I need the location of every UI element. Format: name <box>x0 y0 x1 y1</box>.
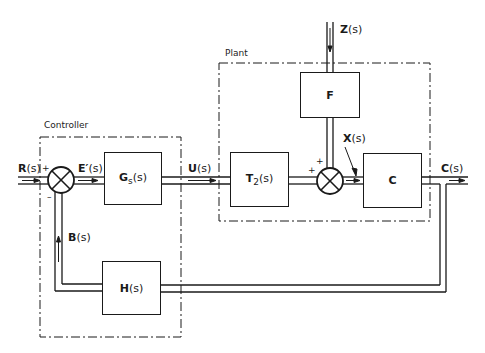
sum1-minus-sign: – <box>47 193 52 202</box>
signal-z-label: Z(s) <box>340 24 362 35</box>
block-h[interactable]: H(s) <box>102 261 161 315</box>
sum1-plus-sign: + <box>42 164 50 173</box>
signal-e-label: E′(s) <box>78 163 103 174</box>
block-c-name: C <box>388 174 396 187</box>
block-f[interactable]: F <box>300 72 360 118</box>
signal-u-label: U(s) <box>188 163 211 174</box>
block-t2-arg: (s) <box>259 172 273 185</box>
sum2-plus-top-sign: + <box>316 157 324 166</box>
sum2-plus-left-sign: + <box>308 166 316 175</box>
block-g-arg: (s) <box>133 171 147 184</box>
signal-x-label: X(s) <box>343 133 366 144</box>
block-h-arg: (s) <box>129 282 143 295</box>
controller-label: Controller <box>44 120 88 130</box>
signal-b-label: B(s) <box>68 232 91 243</box>
block-g-name: G <box>119 171 128 184</box>
block-h-name: H <box>120 282 129 295</box>
block-g[interactable]: Gs(s) <box>104 152 162 205</box>
block-t2[interactable]: T2(s) <box>230 152 289 207</box>
block-c[interactable]: C <box>363 153 422 208</box>
plant-label: Plant <box>225 48 248 58</box>
block-f-name: F <box>326 89 334 102</box>
signal-c-label: C(s) <box>441 163 463 174</box>
signal-r-label: R(s) <box>18 163 41 174</box>
